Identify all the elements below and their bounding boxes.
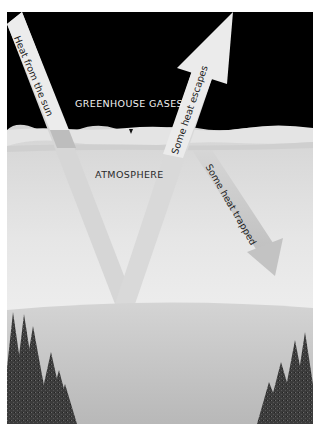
greenhouse-diagram: GREENHOUSE GASES ATMOSPHERE Heat from th…: [7, 12, 313, 424]
diagram-canvas: [7, 12, 313, 424]
greenhouse-gases-label: GREENHOUSE GASES: [75, 98, 183, 109]
atmosphere-label: ATMOSPHERE: [95, 169, 164, 180]
